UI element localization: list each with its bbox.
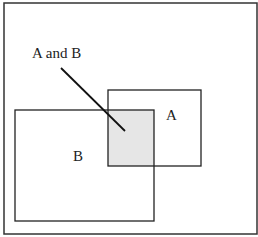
pointer-line <box>61 68 125 131</box>
set-a-label: A <box>166 107 177 123</box>
intersection-label: A and B <box>32 45 81 61</box>
venn-diagram: A and B A B <box>0 0 258 237</box>
set-b-label: B <box>73 148 83 164</box>
intersection-region <box>108 110 154 166</box>
